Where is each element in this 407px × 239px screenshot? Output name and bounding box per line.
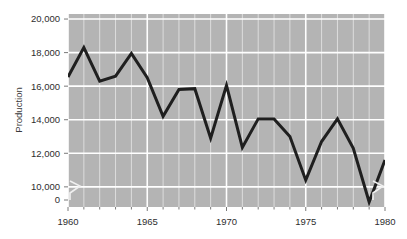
y-tick-label: 14,000 [31, 114, 60, 125]
x-tick-label: 1960 [57, 216, 78, 227]
x-tick-label: 1965 [137, 216, 158, 227]
y-tick-label: 20,000 [31, 13, 60, 24]
x-tick-label: 1975 [295, 216, 316, 227]
x-tick-label: 1970 [216, 216, 237, 227]
y-tick-label: 12,000 [31, 148, 60, 159]
y-tick-label: 0 [55, 194, 60, 205]
y-tick-label: 10,000 [31, 181, 60, 192]
y-axis-title: Production [13, 87, 24, 132]
chart-canvas: 20,00018,00016,00014,00012,00010,0000 19… [0, 0, 407, 239]
y-tick-label: 16,000 [31, 81, 60, 92]
y-tick-label: 18,000 [31, 47, 60, 58]
line-chart: 20,00018,00016,00014,00012,00010,0000 19… [0, 0, 407, 239]
x-tick-label: 1980 [374, 216, 395, 227]
